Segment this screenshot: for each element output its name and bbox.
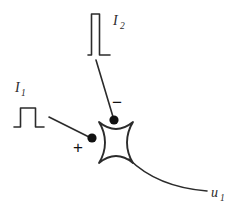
i2-pulse-waveform (88, 14, 110, 55)
u1-label: u (211, 185, 218, 200)
axon-output-line (129, 159, 207, 191)
figure-canvas: I 2 I 1 − + u 1 (0, 0, 238, 215)
i2-connection-line (96, 60, 114, 119)
synapse-dot-excitatory (87, 133, 96, 142)
minus-sign-symbol: − (112, 93, 122, 112)
i2-label: I (112, 13, 119, 28)
output-u1-group: u 1 (211, 185, 225, 203)
input-i1-group: I 1 (14, 80, 90, 138)
i1-pulse-waveform (14, 108, 44, 127)
i2-label-subscript: 2 (120, 21, 125, 31)
i1-connection-line (49, 117, 90, 138)
u1-label-subscript: 1 (220, 193, 225, 203)
neuron-schematic-diagram: I 2 I 1 − + u 1 (0, 0, 238, 215)
soma-astroid-shape (99, 122, 133, 163)
plus-sign-symbol: + (73, 138, 83, 157)
i1-label-subscript: 1 (21, 88, 26, 98)
i1-label: I (14, 80, 21, 95)
synapse-dot-inhibitory (109, 115, 118, 124)
